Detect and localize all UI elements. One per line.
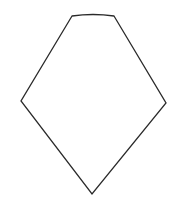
pentagon-shape-figure <box>0 0 179 209</box>
figure-canvas <box>0 0 179 209</box>
pentagon-outline <box>21 15 166 195</box>
